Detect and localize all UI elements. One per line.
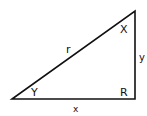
triangle-svg: r y x X Y R (0, 0, 147, 116)
right-triangle-diagram: r y x X Y R (0, 0, 147, 116)
vertical-leg-label: y (139, 52, 145, 63)
hypotenuse-label: r (66, 43, 71, 56)
angle-r-label: R (120, 86, 128, 99)
angle-y-label: Y (30, 86, 38, 99)
horizontal-leg-label: x (73, 104, 79, 114)
angle-x-label: X (120, 23, 128, 36)
